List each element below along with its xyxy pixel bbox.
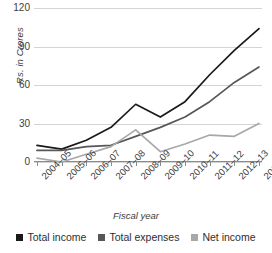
- x-axis-tick-label: 2008–09: [138, 174, 146, 182]
- plot-lines: [34, 8, 262, 162]
- legend-label: Net income: [202, 231, 255, 243]
- y-axis-tick-label: 30: [4, 119, 30, 129]
- legend-label: Total expenses: [109, 231, 179, 243]
- x-axis-tick-label: 2010–11: [187, 174, 195, 182]
- plot-area: [34, 8, 262, 162]
- legend-swatch-icon: [16, 234, 23, 241]
- series-line: [37, 67, 259, 150]
- x-axis-title: Fiscal year: [0, 210, 272, 221]
- y-axis-tick-label: 60: [4, 80, 30, 90]
- legend-label: Total income: [27, 231, 86, 243]
- x-axis-tick-label: 2011–12: [212, 174, 220, 182]
- y-axis-tick-label: 90: [4, 42, 30, 52]
- x-axis-tick-label: 2005–06: [64, 174, 72, 182]
- chart-legend: Total incomeTotal expensesNet income: [0, 231, 272, 243]
- legend-item[interactable]: Net income: [191, 231, 255, 243]
- legend-item[interactable]: Total expenses: [98, 231, 179, 243]
- x-axis-tick-label: 2006–07: [88, 174, 96, 182]
- x-axis-tick-label: 2013–14: [261, 174, 269, 182]
- x-axis-tick-label: 2012–13: [236, 174, 244, 182]
- x-axis-tick-label: 2004–05: [39, 174, 47, 182]
- legend-swatch-icon: [191, 234, 198, 241]
- line-chart: Rs. in Crores 0306090120 2004–052005–062…: [0, 0, 272, 253]
- y-axis-tick-label: 120: [4, 3, 30, 13]
- x-axis-tick-label: 2009–10: [162, 174, 170, 182]
- x-axis-tick-label: 2007–08: [113, 174, 121, 182]
- x-axis-tick-labels: 2004–052005–062006–072007–082008–092009–…: [0, 166, 272, 212]
- legend-item[interactable]: Total income: [16, 231, 86, 243]
- legend-swatch-icon: [98, 234, 105, 241]
